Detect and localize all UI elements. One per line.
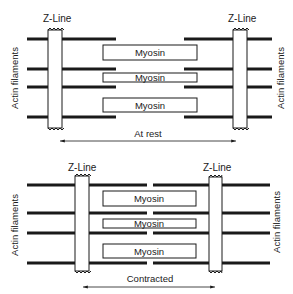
myosin-filament: Myosin — [103, 191, 196, 206]
svg-text:Myosin: Myosin — [135, 47, 165, 58]
z-line-label-right: Z-Line — [203, 162, 232, 173]
actin-filaments-label-right: Actin filaments — [275, 47, 286, 109]
svg-text:Myosin: Myosin — [134, 246, 164, 257]
z-line-label-left: Z-Line — [43, 13, 72, 24]
myosin-filament: Myosin — [103, 72, 197, 83]
svg-text:Myosin: Myosin — [134, 193, 164, 204]
sarcomere-diagram: Z-Line Z-Line — [0, 0, 293, 294]
actin-filaments-label-left: Actin filaments — [9, 47, 20, 109]
svg-text:Myosin: Myosin — [135, 100, 165, 111]
panel-at-rest: Z-Line Z-Line — [9, 13, 286, 141]
z-line-left — [48, 28, 64, 130]
z-line-left — [75, 174, 91, 273]
z-line-right — [233, 28, 249, 130]
myosin-filament: Myosin — [103, 98, 197, 112]
actin-filaments-label-left: Actin filaments — [9, 194, 20, 256]
myosin-filament: Myosin — [103, 244, 196, 258]
myosin-filament: Myosin — [103, 218, 196, 229]
z-line-label-right: Z-Line — [228, 13, 257, 24]
svg-text:Myosin: Myosin — [135, 72, 165, 83]
myosin-filament: Myosin — [103, 45, 197, 60]
svg-text:Myosin: Myosin — [134, 218, 164, 229]
state-label-contracted: Contracted — [127, 273, 173, 284]
z-line-right — [209, 175, 222, 273]
z-line-label-left: Z-Line — [68, 162, 97, 173]
state-label-at-rest: At rest — [134, 128, 162, 139]
panel-contracted: Z-Line Z-Line Myo — [9, 162, 282, 287]
actin-filaments-label-right: Actin filaments — [271, 191, 282, 253]
